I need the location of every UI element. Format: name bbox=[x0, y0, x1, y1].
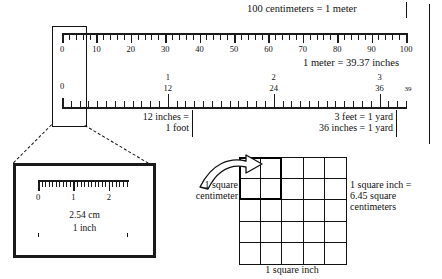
inset-ruler-tick bbox=[63, 180, 64, 187]
inset-ruler-tick bbox=[102, 180, 103, 187]
one-inch-magnifier: 2.54 cm 1 inch 012 bbox=[13, 163, 156, 258]
ruler-tick bbox=[397, 101, 398, 107]
ruler-label: 3 bbox=[377, 72, 381, 82]
ruler-tick bbox=[194, 101, 195, 107]
ruler-label: 36 bbox=[375, 83, 384, 93]
ruler-tick bbox=[296, 33, 297, 40]
ruler-tick bbox=[138, 33, 139, 40]
ruler-label: 12 bbox=[164, 83, 173, 93]
ruler-tick bbox=[241, 33, 242, 40]
square-inch-equivalence: 1 square inch = 6.45 square centimeters bbox=[350, 180, 442, 212]
yard-callout-line2: 36 inches = 1 yard bbox=[283, 123, 393, 134]
inset-ruler-tick bbox=[42, 180, 43, 187]
ruler-tick bbox=[283, 101, 284, 107]
grid-cell bbox=[282, 222, 303, 243]
inset-ruler-label: 0 bbox=[36, 192, 40, 202]
diagram-canvas: 100 centimeters = 1 meter 1 meter = 39.3… bbox=[0, 0, 442, 279]
ruler-tick bbox=[310, 33, 311, 40]
ruler-tick bbox=[255, 33, 256, 40]
ruler-tick bbox=[300, 101, 301, 107]
ruler-label: 10 bbox=[92, 44, 101, 54]
grid-cell bbox=[304, 158, 325, 179]
sqin-line3: centimeters bbox=[350, 202, 442, 213]
ruler-tick bbox=[158, 33, 159, 40]
grid-cell bbox=[325, 200, 346, 221]
inset-ruler-tick bbox=[91, 180, 92, 187]
inset-cm-text: 2.54 cm bbox=[16, 210, 153, 220]
grid-cell bbox=[325, 158, 346, 179]
ruler-tick bbox=[344, 101, 345, 107]
grid-cell bbox=[261, 222, 282, 243]
leader-line-left bbox=[13, 124, 52, 163]
ruler-tick bbox=[206, 33, 207, 40]
ruler-tick bbox=[141, 101, 142, 107]
ruler-tick bbox=[289, 33, 290, 40]
ruler-tick bbox=[317, 33, 318, 40]
ruler-tick bbox=[323, 33, 324, 40]
ruler-tick bbox=[380, 94, 382, 107]
ruler-tick bbox=[358, 33, 359, 40]
grid-cell bbox=[261, 200, 282, 221]
ruler-tick bbox=[282, 33, 283, 40]
first-inch-highlight bbox=[52, 26, 87, 127]
ruler-tick bbox=[69, 33, 70, 40]
inset-ruler-tick bbox=[123, 180, 124, 187]
ruler-tick bbox=[117, 33, 118, 40]
inset-ruler-label: 2 bbox=[107, 192, 111, 202]
inset-ruler-tick bbox=[88, 180, 89, 187]
foot-callout-line2: 1 foot bbox=[100, 123, 189, 134]
page-edge-rule bbox=[429, 4, 430, 144]
ruler-label: 70 bbox=[299, 44, 308, 54]
ruler-tick bbox=[124, 101, 125, 107]
inset-ruler-tick bbox=[45, 180, 46, 187]
grid-cell bbox=[325, 243, 346, 264]
ruler-tick bbox=[106, 101, 107, 107]
ruler-tick bbox=[303, 33, 305, 43]
grid-cell bbox=[304, 243, 325, 264]
ruler-label: 40 bbox=[195, 44, 204, 54]
ruler-label: 80 bbox=[333, 44, 342, 54]
ruler-tick bbox=[124, 33, 125, 40]
ruler-label: 2 bbox=[272, 72, 276, 82]
ruler-label: 0 bbox=[60, 44, 64, 54]
inset-ruler-tick bbox=[112, 180, 113, 187]
ruler-label: 50 bbox=[230, 44, 239, 54]
ruler-tick bbox=[168, 94, 170, 107]
ruler-tick bbox=[248, 33, 249, 40]
ruler-tick bbox=[62, 98, 64, 107]
ruler-label: 1 bbox=[166, 72, 170, 82]
inset-ruler-tick bbox=[38, 180, 40, 191]
ruler-label: 30 bbox=[161, 44, 170, 54]
grid-cell bbox=[282, 243, 303, 264]
ruler-tick bbox=[230, 101, 231, 107]
grid-cell bbox=[240, 243, 261, 264]
grid-cell bbox=[304, 200, 325, 221]
inset-ruler-tick bbox=[56, 180, 57, 187]
ruler-tick bbox=[80, 101, 81, 107]
cm-note-rule bbox=[406, 2, 407, 18]
ruler-tick bbox=[385, 33, 386, 40]
ruler-tick bbox=[97, 101, 98, 107]
ruler-tick bbox=[172, 33, 173, 40]
ruler-tick bbox=[227, 33, 228, 40]
ruler-tick bbox=[344, 33, 345, 40]
ruler-tick bbox=[186, 33, 187, 40]
ruler-tick bbox=[110, 33, 111, 40]
inch-ruler-note: 1 meter = 39.37 inches bbox=[303, 57, 399, 68]
ruler-tick bbox=[392, 33, 393, 40]
inset-ruler-tick bbox=[66, 180, 67, 187]
ruler-tick bbox=[115, 101, 116, 107]
foot-callout: 12 inches = 1 foot bbox=[100, 112, 189, 134]
ruler-tick bbox=[200, 33, 202, 43]
grid-cell bbox=[304, 179, 325, 200]
square-centimeter-label: 1 square centimeter bbox=[186, 180, 238, 202]
ruler-tick bbox=[399, 33, 400, 40]
ruler-tick bbox=[291, 101, 292, 107]
ruler-tick bbox=[247, 101, 248, 107]
inset-ruler-tick bbox=[81, 180, 82, 187]
ruler-tick bbox=[234, 33, 236, 43]
ruler-tick bbox=[151, 33, 152, 40]
inset-ruler-tick bbox=[49, 180, 50, 187]
ruler-tick bbox=[274, 94, 276, 107]
inset-ruler-tick bbox=[109, 180, 111, 191]
